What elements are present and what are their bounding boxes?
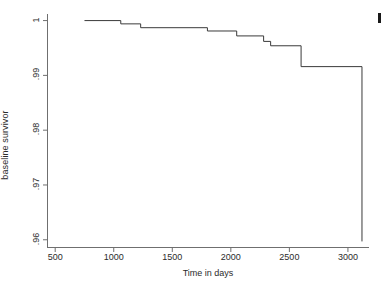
baseline-survivor-step-curve: [84, 21, 362, 242]
x-tick-label: 2000: [211, 252, 251, 262]
y-tick-label: 1: [31, 9, 41, 31]
edge-artifact-mark: [378, 13, 381, 23]
y-tick-label: .96: [31, 228, 41, 250]
y-axis-ticks: [43, 21, 48, 240]
x-tick-label: 2500: [269, 252, 309, 262]
figure-canvas: baseline survivor .96.97.98.991 50010001…: [0, 0, 386, 290]
x-tick-label: 3000: [328, 252, 368, 262]
y-tick-label: .97: [31, 173, 41, 195]
y-tick-label: .98: [31, 118, 41, 140]
x-axis-title: Time in days: [47, 268, 369, 278]
x-tick-label: 1000: [94, 252, 134, 262]
y-tick-label: .99: [31, 63, 41, 85]
y-axis-title: baseline survivor: [0, 0, 12, 290]
x-tick-label: 1500: [152, 252, 192, 262]
plot-area: [47, 14, 369, 248]
x-tick-label: 500: [35, 252, 75, 262]
chart-svg: [47, 14, 369, 248]
